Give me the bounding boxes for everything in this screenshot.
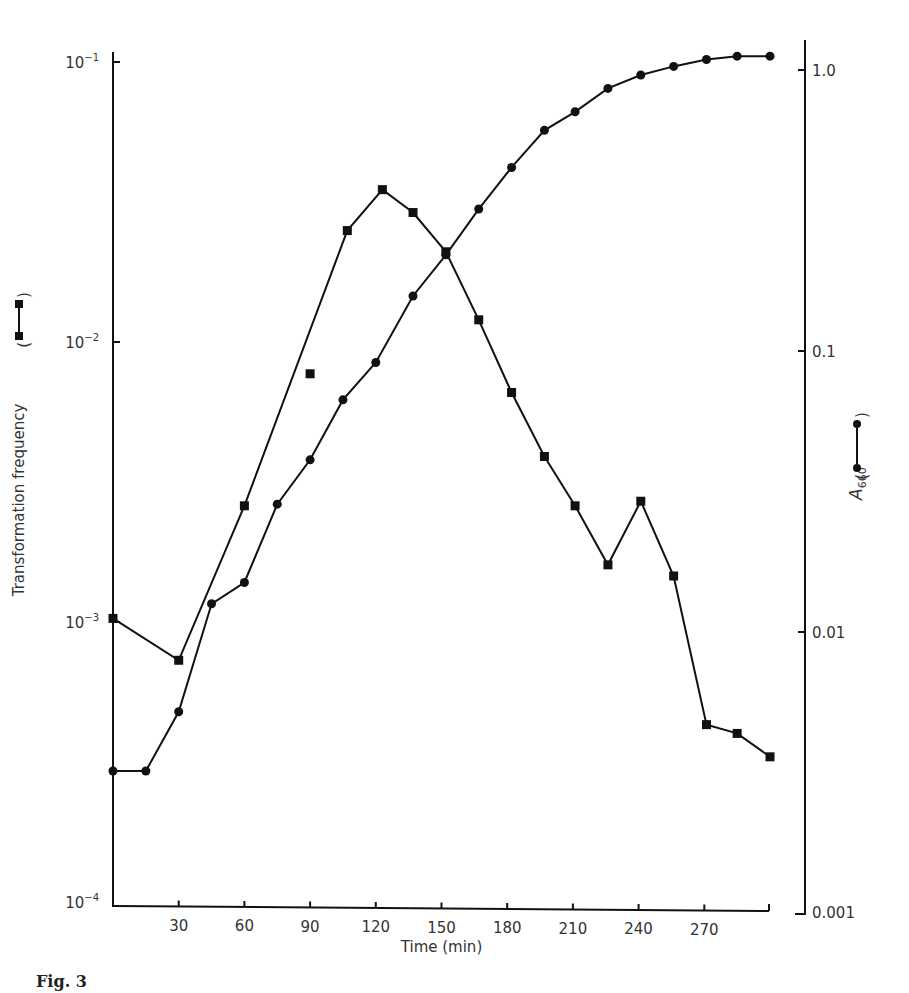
- right-axis-title: A660: [846, 467, 869, 501]
- left-axis-title-group: Transformation frequency: [10, 404, 28, 598]
- square-data-point: [507, 388, 516, 397]
- circle-data-point: [240, 578, 249, 587]
- right-tick-label: 0.001: [812, 904, 855, 922]
- x-tick-label: 180: [493, 919, 522, 937]
- plot-area: [109, 52, 775, 776]
- dual-axis-line-chart: 306090120150180210240270Time (min)10−110…: [0, 0, 909, 993]
- circle-data-point: [207, 599, 216, 608]
- circle-data-point: [174, 707, 183, 716]
- square-data-point: [702, 720, 711, 729]
- circle-data-point: [273, 500, 282, 509]
- circle-data-point: [702, 55, 711, 64]
- circle-data-point: [766, 52, 775, 61]
- square-data-point: [343, 226, 352, 235]
- right-tick-label: 0.1: [812, 343, 836, 361]
- square-data-point: [174, 656, 183, 665]
- left-tick-label: 10−1: [65, 52, 99, 72]
- square-data-point: [378, 185, 387, 194]
- circle-data-point: [636, 70, 645, 79]
- circle-data-point: [141, 767, 150, 776]
- circle-data-point: [441, 250, 450, 259]
- axes: [113, 40, 806, 914]
- square-data-point: [636, 497, 645, 506]
- right-tick-label: 0.01: [812, 624, 845, 642]
- x-tick-label: 150: [427, 919, 456, 937]
- circle-marker-icon: [853, 464, 861, 472]
- square-data-point: [733, 729, 742, 738]
- paren-close: ): [15, 292, 33, 298]
- circle-data-point: [371, 358, 380, 367]
- circle-data-point: [603, 84, 612, 93]
- square-data-point: [540, 452, 549, 461]
- transformation-frequency-line: [113, 190, 770, 757]
- circle-marker-icon: [853, 420, 861, 428]
- left-legend-square-marker: (): [15, 292, 33, 348]
- square-data-point: [409, 208, 418, 217]
- circle-data-point: [540, 126, 549, 135]
- square-data-point: [571, 501, 580, 510]
- left-tick-label: 10−3: [65, 612, 99, 632]
- square-data-point: [240, 501, 249, 510]
- right-tick-label: 1.0: [812, 62, 836, 80]
- circle-data-point: [571, 107, 580, 116]
- x-tick-label: 90: [301, 918, 320, 936]
- circle-data-point: [109, 767, 118, 776]
- square-data-point: [603, 560, 612, 569]
- right-axis-title-group: A660: [846, 467, 869, 501]
- left-tick-label: 10−2: [65, 332, 99, 352]
- circle-data-point: [338, 395, 347, 404]
- circle-data-point: [474, 205, 483, 214]
- square-data-point: [306, 369, 315, 378]
- left-axis-title: Transformation frequency: [10, 404, 28, 598]
- square-data-point: [766, 752, 775, 761]
- paren-close: ): [853, 412, 871, 418]
- circle-data-point: [409, 291, 418, 300]
- x-tick-label: 270: [690, 921, 719, 939]
- left-tick-label: 10−4: [65, 892, 99, 912]
- square-data-point: [474, 315, 483, 324]
- square-data-point: [109, 614, 118, 623]
- paren-open: (: [853, 474, 871, 480]
- figure-caption: Fig. 3: [36, 972, 87, 991]
- x-axis-title: Time (min): [400, 938, 482, 956]
- circle-data-point: [733, 52, 742, 61]
- circle-data-point: [669, 62, 678, 71]
- x-tick-label: 30: [169, 917, 188, 935]
- a660-line: [113, 56, 770, 771]
- square-marker-icon: [15, 300, 23, 308]
- x-tick-label: 120: [361, 918, 390, 936]
- circle-data-point: [507, 163, 516, 172]
- circle-data-point: [306, 455, 315, 464]
- square-data-point: [669, 571, 678, 580]
- axis-labels: 306090120150180210240270Time (min)10−110…: [10, 52, 871, 956]
- square-marker-icon: [15, 332, 23, 340]
- x-tick-label: 210: [559, 920, 588, 938]
- x-tick-label: 240: [624, 920, 653, 938]
- x-tick-label: 60: [235, 917, 254, 935]
- paren-open: (: [15, 342, 33, 348]
